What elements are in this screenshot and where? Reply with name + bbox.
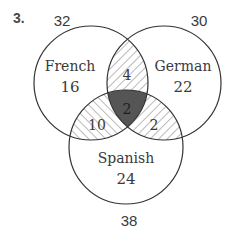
french-only: 16	[60, 78, 79, 96]
german-only: 22	[173, 78, 192, 96]
spanish-label: Spanish	[98, 150, 155, 166]
german-total: 30	[191, 12, 208, 29]
french-label: French	[45, 58, 96, 74]
german-label: German	[155, 58, 212, 74]
venn-diagram: 32 30 38 French 16 German 22 Spanish 24 …	[0, 0, 234, 239]
all-three-value: 2	[123, 101, 132, 117]
french-spanish-value: 10	[88, 117, 106, 133]
french-german-value: 4	[123, 67, 132, 83]
spanish-only: 24	[116, 170, 135, 188]
german-spanish-value: 2	[150, 117, 159, 133]
spanish-total: 38	[121, 212, 138, 229]
french-total: 32	[54, 12, 71, 29]
